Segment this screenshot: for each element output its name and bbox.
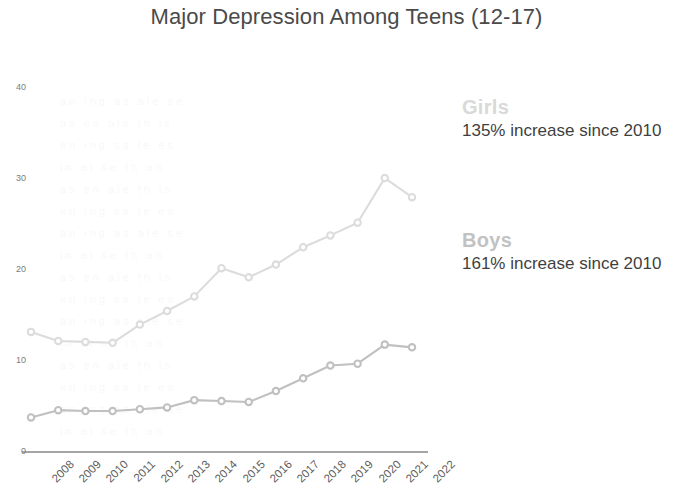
data-point	[246, 274, 252, 280]
legend-item-girls: Girls 135% increase since 2010	[462, 96, 661, 141]
data-point	[164, 404, 170, 410]
data-point	[409, 194, 415, 200]
y-tick-10: 10	[2, 355, 26, 365]
data-point	[82, 339, 88, 345]
data-point	[300, 244, 306, 250]
legend-stat-boys: 161% increase since 2010	[462, 254, 661, 274]
data-point	[191, 397, 197, 403]
data-point	[55, 407, 61, 413]
data-point	[218, 398, 224, 404]
data-point	[327, 232, 333, 238]
data-point	[109, 408, 115, 414]
data-point	[300, 375, 306, 381]
chart-container: an ing as ale se as en ale th is en ing …	[0, 0, 693, 499]
data-point	[55, 338, 61, 344]
legend-stat-girls: 135% increase since 2010	[462, 121, 661, 141]
data-point	[273, 261, 279, 267]
data-point	[354, 361, 360, 367]
data-point	[273, 388, 279, 394]
data-point	[28, 414, 34, 420]
y-tick-40: 40	[2, 82, 26, 92]
data-point	[191, 293, 197, 299]
data-point	[327, 362, 333, 368]
data-point	[28, 329, 34, 335]
legend-label-girls: Girls	[462, 96, 661, 118]
data-point	[354, 219, 360, 225]
data-point	[409, 344, 415, 350]
data-point	[246, 399, 252, 405]
legend-label-boys: Boys	[462, 229, 661, 251]
data-point	[137, 406, 143, 412]
data-point	[218, 265, 224, 271]
y-tick-30: 30	[2, 173, 26, 183]
y-tick-20: 20	[2, 264, 26, 274]
series-line-girls	[31, 178, 412, 343]
data-point	[164, 308, 170, 314]
series-group	[28, 175, 415, 421]
data-point	[82, 408, 88, 414]
data-point	[109, 340, 115, 346]
data-point	[382, 175, 388, 181]
y-tick-0: 0	[2, 446, 26, 456]
data-point	[137, 321, 143, 327]
data-point	[382, 341, 388, 347]
legend-item-boys: Boys 161% increase since 2010	[462, 229, 661, 274]
series-line-boys	[31, 345, 412, 418]
